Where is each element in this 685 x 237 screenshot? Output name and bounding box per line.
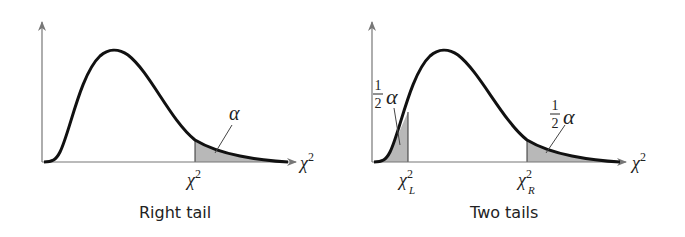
right-tail-shaded-area (527, 140, 620, 162)
svg-text:2: 2 (375, 96, 382, 111)
left-tail-shaded-area (374, 112, 408, 162)
svg-text:1: 1 (375, 78, 382, 93)
two-tails-panel: 1 2 α 1 2 α χ2 χ2 L χ2 R (372, 22, 646, 196)
critical-value-label: χ2 (185, 167, 201, 190)
x-axis-label: χ2 (630, 150, 646, 173)
chi-square-curve (44, 50, 288, 162)
right-half-alpha-label: 1 2 α (550, 98, 575, 131)
alpha-leader-line (215, 125, 232, 153)
chi-left-subscript: L (408, 184, 415, 196)
svg-text:1: 1 (552, 98, 559, 113)
svg-text:α: α (563, 104, 575, 129)
svg-text:2: 2 (552, 116, 559, 131)
svg-text:α: α (386, 84, 398, 109)
x-axis-label: χ2 (298, 150, 314, 173)
right-tail-caption: Right tail (139, 203, 211, 222)
two-tails-caption: Two tails (470, 203, 538, 222)
chi-right-subscript: R (527, 184, 535, 196)
right-tail-shaded-area (195, 140, 290, 162)
left-half-alpha-label: 1 2 α (373, 78, 398, 111)
chi-square-curve (374, 50, 620, 162)
alpha-label: α (229, 102, 240, 124)
chi-square-diagram: α χ2 χ2 1 2 α 1 2 α (0, 0, 685, 237)
right-tail-panel: α χ2 χ2 (42, 22, 314, 190)
